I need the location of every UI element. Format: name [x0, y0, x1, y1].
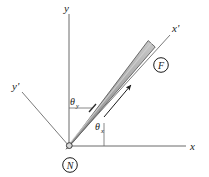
pivot-joint-icon — [66, 143, 72, 149]
theta-x-subscript: x — [100, 127, 104, 134]
y-axis-label: y — [63, 2, 69, 14]
theta-x-symbol: θ — [95, 121, 100, 132]
x-prime-axis-label: x' — [171, 22, 180, 34]
rod-body — [66, 41, 155, 150]
node-n-label: N — [66, 160, 75, 171]
node-origin: N — [63, 143, 78, 173]
theta-y-subscript: y — [75, 102, 79, 109]
y-prime-axis-line — [22, 92, 69, 146]
angle-theta-x: θ x — [95, 121, 104, 146]
x-axis-label: x — [189, 140, 195, 152]
node-tip: F — [154, 58, 169, 73]
y-prime-axis-label: y' — [11, 80, 20, 92]
theta-y-symbol: θ — [70, 96, 75, 107]
rod-shape — [66, 41, 155, 150]
mechanics-rod-diagram: y x x' y' θ y θ x — [0, 0, 209, 177]
node-f-label: F — [157, 60, 165, 71]
diagram-canvas: y x x' y' θ y θ x — [0, 0, 209, 177]
angle-theta-y: θ y — [69, 96, 96, 112]
rod-highlight — [70, 43, 152, 143]
